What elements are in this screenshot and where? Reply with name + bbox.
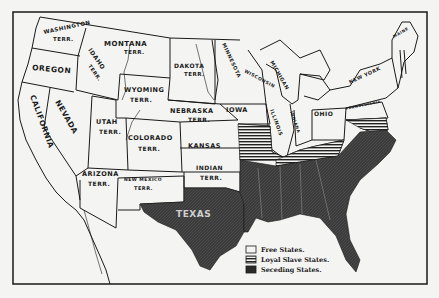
- label-nebraska: NEBRASKA: [170, 107, 214, 115]
- label-new-mexico-terr: TERR.: [134, 185, 153, 191]
- label-washington-terr: TERR.: [53, 36, 74, 42]
- label-dakota-terr: TERR.: [184, 71, 205, 77]
- label-ohio: OHIO: [314, 110, 333, 117]
- legend-label-seceding: Seceding States.: [261, 266, 321, 274]
- label-indian: INDIAN: [196, 164, 223, 171]
- label-texas: TEXAS: [176, 209, 211, 219]
- label-wyoming: WYOMING: [124, 86, 164, 94]
- label-kansas: KANSAS: [188, 142, 221, 150]
- label-utah-terr: TERR.: [99, 128, 121, 135]
- label-arizona: ARIZONA: [82, 170, 119, 178]
- label-montana-terr: TERR.: [124, 49, 145, 55]
- label-colorado: COLORADO: [128, 134, 173, 142]
- label-colorado-terr: TERR.: [138, 145, 160, 152]
- label-montana: MONTANA: [104, 40, 147, 48]
- legend-swatch-seceding: [246, 266, 256, 273]
- label-dakota: DAKOTA: [174, 62, 204, 69]
- label-iowa: IOWA: [226, 106, 248, 114]
- legend-label-free: Free States.: [261, 246, 304, 254]
- label-wyoming-terr: TERR.: [130, 96, 152, 103]
- civil-war-map: WASHINGTON TERR. MONTANA TERR. OREGON ID…: [0, 0, 439, 298]
- legend-swatch-loyal: [246, 256, 256, 263]
- label-utah: UTAH: [96, 118, 118, 126]
- label-arizona-terr: TERR.: [88, 180, 110, 187]
- label-nebraska-terr: TERR.: [188, 116, 210, 123]
- legend-label-loyal: Loyal Slave States.: [261, 256, 329, 264]
- legend-swatch-free: [246, 246, 256, 253]
- label-new-mexico: NEW MEXICO: [124, 177, 162, 182]
- label-indian-terr: TERR.: [200, 174, 222, 181]
